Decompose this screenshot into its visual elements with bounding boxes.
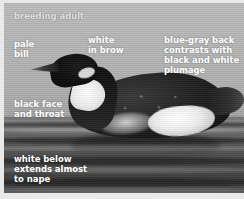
- annotation-pale-bill: pale bill: [14, 39, 34, 59]
- annotation-white-in-brow: white in brow: [88, 35, 124, 55]
- annotation-blue-gray-back: blue-gray back contrasts with black and …: [164, 35, 239, 75]
- annotation-white-below-extends-to-nape: white below extends almost to nape: [14, 154, 87, 184]
- annotation-black-face-and-throat: black face and throat: [14, 99, 64, 119]
- caption-breeding-adult: breeding adult: [14, 11, 84, 21]
- photograph: breeding adult pale bill white in brow b…: [4, 3, 244, 193]
- bird-photo-figure: breeding adult pale bill white in brow b…: [0, 0, 244, 199]
